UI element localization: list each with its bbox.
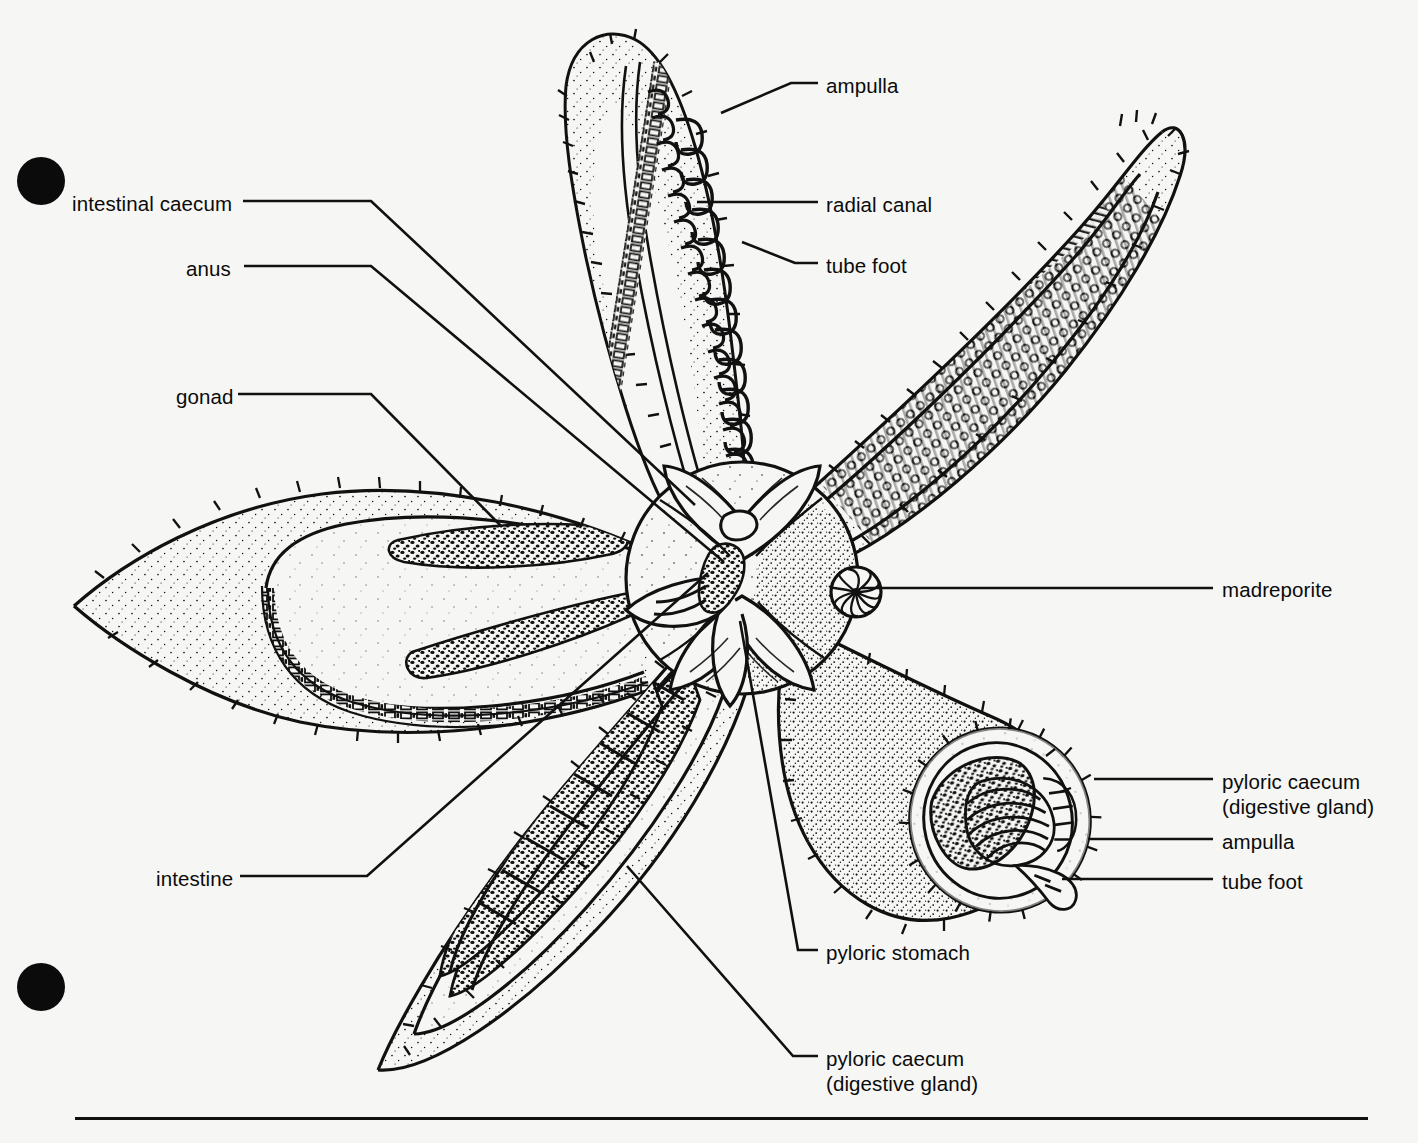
label-tube-foot-top: tube foot bbox=[826, 253, 907, 278]
label-ampulla-top: ampulla bbox=[826, 73, 899, 98]
anus bbox=[721, 511, 757, 540]
label-anus: anus bbox=[186, 256, 231, 281]
label-gonad: gonad bbox=[176, 384, 234, 409]
label-pyloric-stomach: pyloric stomach bbox=[826, 940, 970, 965]
label-ampulla-right: ampulla bbox=[1222, 829, 1295, 854]
label-madreporite: madreporite bbox=[1222, 577, 1333, 602]
label-pyloric-caecum-bottom: pyloric caecum (digestive gland) bbox=[826, 1046, 978, 1096]
leader-ampulla-top bbox=[721, 83, 818, 113]
label-pyloric-caecum-right: pyloric caecum (digestive gland) bbox=[1222, 769, 1374, 819]
label-intestine: intestine bbox=[156, 866, 233, 891]
label-intestinal-caecum: intestinal caecum bbox=[72, 191, 232, 216]
label-tube-foot-right: tube foot bbox=[1222, 869, 1303, 894]
leader-tube-foot-top bbox=[742, 242, 818, 263]
label-radial-canal: radial canal bbox=[826, 192, 932, 217]
madreporite bbox=[831, 567, 881, 617]
figure-page: intestinal caecum anus gonad intestine a… bbox=[0, 0, 1418, 1143]
footer-rule bbox=[75, 1117, 1368, 1120]
sea-star-anatomy-illustration bbox=[0, 0, 1418, 1143]
